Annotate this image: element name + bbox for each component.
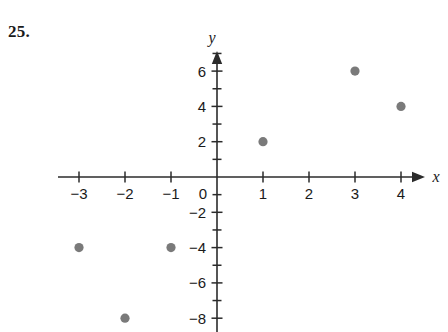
x-tick-label-1: 1 <box>259 185 267 202</box>
data-point: (1, 2) <box>258 137 267 146</box>
y-tick-label--4: −4 <box>189 239 206 256</box>
y-tick-label-2: 2 <box>198 133 206 150</box>
x-axis-label: x <box>431 168 439 185</box>
data-point: (-3, -4) <box>74 243 83 252</box>
x-tick-label--2: −2 <box>116 185 133 202</box>
axes-group <box>58 51 425 332</box>
x-tick-label-4: 4 <box>397 185 405 202</box>
scatter-plot: −3−2−101234642−2−4−6−8 xy (1, 2)(3, 6)(4… <box>0 0 448 332</box>
x-tick-label-2: 2 <box>305 185 313 202</box>
y-axis-label: y <box>206 29 216 47</box>
figure-container: 25. −3−2−101234642−2−4−6−8 xy (1, 2)(3, … <box>0 0 448 332</box>
x-tick-label--1: −1 <box>162 185 179 202</box>
x-axis-arrow-icon <box>412 172 425 182</box>
x-tick-label-3: 3 <box>351 185 359 202</box>
data-point: (4, 4) <box>396 102 405 111</box>
data-point: (-1, -4) <box>166 243 175 252</box>
y-tick-label--2: −2 <box>189 204 206 221</box>
data-point: (3, 6) <box>350 67 359 76</box>
y-tick-label-6: 6 <box>198 63 206 80</box>
x-tick-label--3: −3 <box>70 185 87 202</box>
x-tick-label-0: 0 <box>199 185 207 202</box>
y-tick-label--8: −8 <box>189 310 206 327</box>
tick-labels-group: −3−2−101234642−2−4−6−8 <box>70 63 405 327</box>
y-tick-label-4: 4 <box>198 98 206 115</box>
data-point: (-2, -8) <box>120 314 129 323</box>
y-tick-label--6: −6 <box>189 274 206 291</box>
